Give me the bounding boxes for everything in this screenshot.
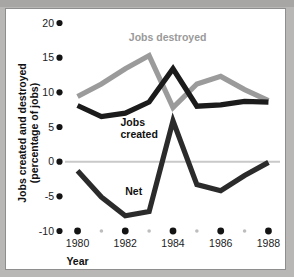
y-tick-label: 5 <box>48 121 54 133</box>
series-label-created-2: created <box>121 128 158 140</box>
y-tick-label: 15 <box>42 51 54 63</box>
x-tick-label: 1984 <box>161 237 185 249</box>
y-tick-dot <box>56 124 62 130</box>
x-tick-label: 1986 <box>209 237 233 249</box>
x-tick-dot-minor <box>243 229 247 233</box>
y-tick-dot <box>56 228 62 234</box>
x-tick-label: 1980 <box>66 237 90 249</box>
y-axis-title-line1: Jobs created and destroyed <box>16 63 28 202</box>
y-tick-dot <box>56 159 62 165</box>
x-axis-title: Year <box>66 255 88 267</box>
y-tick-label: 0 <box>48 155 54 167</box>
y-axis-title-line2: (percentage of jobs) <box>28 83 40 183</box>
x-tick-dot-major <box>170 228 177 235</box>
x-tick-dot-minor <box>100 229 104 233</box>
x-tick-label: 1988 <box>257 237 281 249</box>
x-tick-label: 1982 <box>114 237 138 249</box>
x-tick-dot-major <box>74 228 81 235</box>
x-tick-dot-major <box>122 228 129 235</box>
series-line-net <box>78 121 269 216</box>
series-label-destroyed: Jobs destroyed <box>129 31 207 43</box>
series-label-net: Net <box>125 185 142 197</box>
series-label-created: Jobs <box>121 116 146 128</box>
y-tick-label: 10 <box>42 86 54 98</box>
y-tick-dot <box>56 55 62 61</box>
x-tick-dot-major <box>265 228 272 235</box>
line-chart: 20151050-5-1019801982198419861988Jobs de… <box>6 9 286 270</box>
x-tick-dot-major <box>217 228 224 235</box>
y-tick-label: -5 <box>45 190 54 202</box>
x-tick-dot-minor <box>195 229 199 233</box>
y-tick-label: 20 <box>42 17 54 29</box>
x-tick-dot-minor <box>147 229 151 233</box>
y-tick-dot <box>56 20 62 26</box>
y-tick-label: -10 <box>39 225 54 237</box>
figure-root: 20151050-5-1019801982198419861988Jobs de… <box>0 0 294 277</box>
chart-card: 20151050-5-1019801982198419861988Jobs de… <box>5 8 286 270</box>
y-tick-dot <box>56 89 62 95</box>
y-tick-dot <box>56 193 62 199</box>
